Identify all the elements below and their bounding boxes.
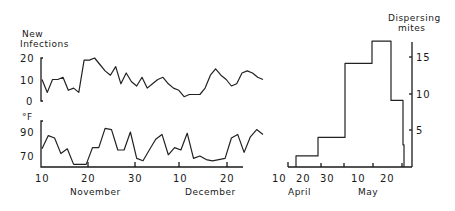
- infections-line: [42, 58, 263, 97]
- mites-title-line1: Dispersing: [388, 13, 441, 23]
- infections-ytick-10: 10: [20, 75, 35, 86]
- mites-ytick-5: 5: [416, 125, 423, 136]
- figure: New Infections 20 10 0 °F 90 70 10 20 30…: [0, 0, 455, 211]
- left-x-ticks: [88, 162, 227, 167]
- month-label-april: April: [288, 187, 311, 197]
- month-label-may: May: [358, 187, 378, 197]
- month-label-december: December: [185, 187, 236, 197]
- right-xtick-apr10: 10: [272, 173, 287, 184]
- temp-ytick-90: 90: [20, 127, 35, 138]
- right-xtick-may20: 20: [380, 173, 395, 184]
- left-xtick-dec20: 20: [220, 173, 235, 184]
- mites-histogram: [296, 41, 404, 167]
- left-xtick-nov10: 10: [35, 173, 50, 184]
- mites-title-line2: mites: [398, 23, 426, 33]
- temperature-line: [42, 128, 263, 164]
- temp-unit-label: °F: [22, 112, 33, 122]
- mites-ytick-15: 15: [416, 52, 431, 63]
- left-xtick-nov30: 30: [128, 173, 143, 184]
- right-xtick-may10: 10: [351, 173, 366, 184]
- left-xtick-dec10: 10: [173, 173, 188, 184]
- mites-ytick-10: 10: [416, 89, 431, 100]
- temp-ytick-70: 70: [20, 151, 35, 162]
- right-xtick-apr30: 30: [320, 173, 335, 184]
- right-xtick-apr20: 20: [296, 173, 311, 184]
- left-xtick-nov20: 20: [81, 173, 96, 184]
- month-label-november: November: [70, 187, 121, 197]
- infections-ytick-20: 20: [20, 53, 35, 64]
- infections-title-line1: New: [22, 29, 43, 39]
- infections-ytick-0: 0: [26, 96, 33, 107]
- infections-title-line2: Infections: [20, 39, 69, 49]
